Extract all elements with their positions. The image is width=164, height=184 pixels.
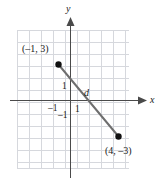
x-axis-tick-label-negative: –1 xyxy=(48,104,58,114)
y-axis-tick-label-positive: 1 xyxy=(62,82,67,92)
y-axis xyxy=(67,17,75,178)
x-axis-name-label: x xyxy=(150,95,154,105)
x-axis-tick-label-positive: 1 xyxy=(75,105,80,115)
distance-label: d xyxy=(84,88,89,98)
y-axis-arrowhead xyxy=(67,17,75,26)
x-axis-arrowhead xyxy=(138,97,147,105)
point-a-label: (–1, 3) xyxy=(22,44,49,54)
point-marker-a xyxy=(55,61,61,67)
y-axis-tick-label-negative: –1 xyxy=(58,111,68,121)
point-marker-b xyxy=(115,133,121,139)
y-axis-name-label: y xyxy=(66,4,70,14)
coordinate-plane-svg xyxy=(0,0,164,184)
point-b-label: (4, –3) xyxy=(105,146,132,156)
coordinate-plane-figure: (–1, 3) (4, –3) d 1 1 –1 –1 y x xyxy=(0,0,164,184)
